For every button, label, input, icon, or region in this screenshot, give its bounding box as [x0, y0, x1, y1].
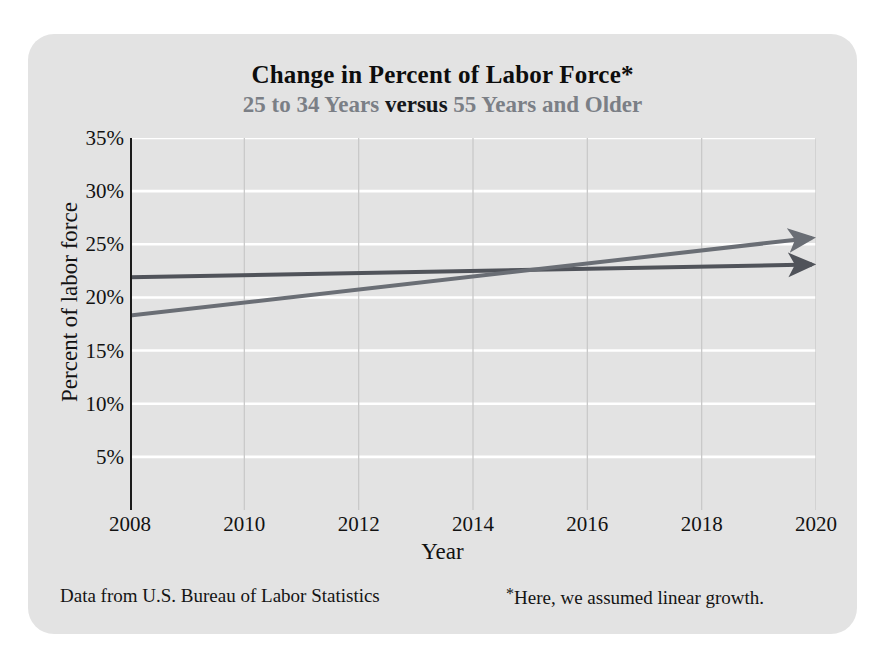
x-tick-label: 2008	[109, 512, 151, 537]
data-series-layer	[130, 238, 812, 316]
x-axis-title: Year	[28, 539, 857, 565]
y-tick-label: 35%	[56, 126, 124, 151]
x-tick-label: 2014	[452, 512, 494, 537]
y-tick-label: 5%	[56, 444, 124, 469]
chart-subtitle: 25 to 34 Years versus 55 Years and Older	[28, 91, 857, 118]
footnote-star: *	[506, 585, 514, 602]
line-chart-svg	[130, 138, 816, 510]
subtitle-connector: versus	[385, 92, 448, 117]
x-tick-label: 2010	[223, 512, 265, 537]
y-tick-label: 25%	[56, 232, 124, 257]
title-block: Change in Percent of Labor Force* 25 to …	[28, 60, 857, 118]
subtitle-series-2: 55 Years and Older	[453, 92, 642, 117]
y-tick-label: 15%	[56, 338, 124, 363]
data-source-caption: Data from U.S. Bureau of Labor Statistic…	[60, 585, 380, 607]
y-tick-label: 30%	[56, 179, 124, 204]
y-tick-label: 10%	[56, 391, 124, 416]
x-tick-label: 2020	[795, 512, 837, 537]
x-tick-label: 2016	[566, 512, 608, 537]
vertical-gridlines	[244, 138, 816, 510]
footnote: *Here, we assumed linear growth.	[506, 585, 764, 609]
x-axis-tick-labels: 2008201020122014201620182020	[130, 512, 816, 542]
y-axis-tick-labels: 5%10%15%20%25%30%35%	[52, 138, 124, 510]
y-tick-label: 20%	[56, 285, 124, 310]
x-tick-label: 2018	[681, 512, 723, 537]
subtitle-series-1: 25 to 34 Years	[243, 92, 379, 117]
plot-area	[130, 138, 816, 510]
chart-card: Change in Percent of Labor Force* 25 to …	[28, 34, 857, 634]
x-tick-label: 2012	[338, 512, 380, 537]
footnote-text: Here, we assumed linear growth.	[514, 587, 764, 608]
page-title: Change in Percent of Labor Force*	[28, 60, 857, 89]
